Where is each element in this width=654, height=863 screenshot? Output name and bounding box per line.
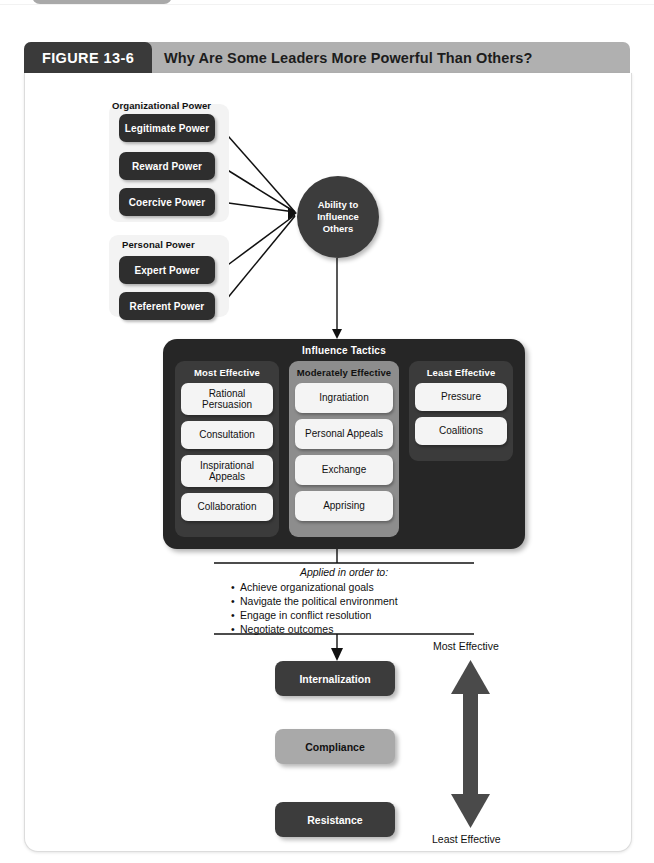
tactic-collaboration: Collaboration [181, 493, 273, 521]
tactic-rational-persuasion: Rational Persuasion [181, 383, 273, 415]
tactic-personal-appeals: Personal Appeals [295, 419, 393, 449]
tactics-column-moderately-effective: Moderately Effective Ingratiation Person… [289, 361, 399, 537]
outcome-internalization: Internalization [275, 661, 395, 696]
hub-line-2: Influence [317, 211, 359, 223]
figure-title: Why Are Some Leaders More Powerful Than … [164, 42, 532, 73]
applied-bullet: Negotiate outcomes [240, 623, 474, 637]
organizational-power-label: Organizational Power [112, 100, 211, 111]
power-box-coercive: Coercive Power [119, 188, 215, 216]
outcome-compliance: Compliance [275, 729, 395, 764]
influence-tactics-panel: Influence Tactics Most Effective Rationa… [163, 339, 525, 549]
tactic-apprising: Apprising [295, 491, 393, 521]
tactic-consultation: Consultation [181, 421, 273, 449]
column-heading-most-effective: Most Effective [175, 367, 279, 378]
influence-tactics-title: Influence Tactics [163, 345, 525, 356]
applied-bullet: Navigate the political environment [240, 595, 474, 609]
power-box-referent: Referent Power [119, 292, 215, 320]
outcome-resistance: Resistance [275, 802, 395, 837]
tactic-exchange: Exchange [295, 455, 393, 485]
power-box-expert: Expert Power [119, 256, 215, 284]
applied-bullet: Engage in conflict resolution [240, 609, 474, 623]
tactic-inspirational-appeals: Inspirational Appeals [181, 455, 273, 487]
figure-header: FIGURE 13-6 Why Are Some Leaders More Po… [24, 42, 630, 73]
hub-line-3: Others [317, 223, 359, 235]
power-box-reward: Reward Power [119, 152, 215, 180]
power-box-legitimate: Legitimate Power [119, 114, 215, 142]
scale-label-most-effective: Most Effective [433, 640, 499, 652]
applied-bullet-list: Achieve organizational goals Navigate th… [214, 581, 474, 637]
tactic-ingratiation: Ingratiation [295, 383, 393, 413]
tactics-column-most-effective: Most Effective Rational Persuasion Consu… [175, 361, 279, 537]
page-top-rule [0, 4, 654, 5]
applied-heading: Applied in order to: [214, 566, 474, 580]
applied-bullet: Achieve organizational goals [240, 581, 474, 595]
tactic-pressure: Pressure [415, 383, 507, 411]
personal-power-label: Personal Power [122, 239, 195, 250]
column-heading-least-effective: Least Effective [409, 367, 513, 378]
tactic-coalitions: Coalitions [415, 417, 507, 445]
figure-number-tab: FIGURE 13-6 [24, 42, 152, 73]
scale-label-least-effective: Least Effective [432, 833, 501, 845]
ability-to-influence-circle: Ability to Influence Others [297, 176, 379, 258]
column-heading-moderately-effective: Moderately Effective [289, 367, 399, 378]
applied-block: Applied in order to: Achieve organizatio… [214, 566, 474, 637]
hub-line-1: Ability to [317, 199, 359, 211]
figure-number-label: FIGURE 13-6 [42, 50, 134, 66]
tactics-column-least-effective: Least Effective Pressure Coalitions [409, 361, 513, 461]
